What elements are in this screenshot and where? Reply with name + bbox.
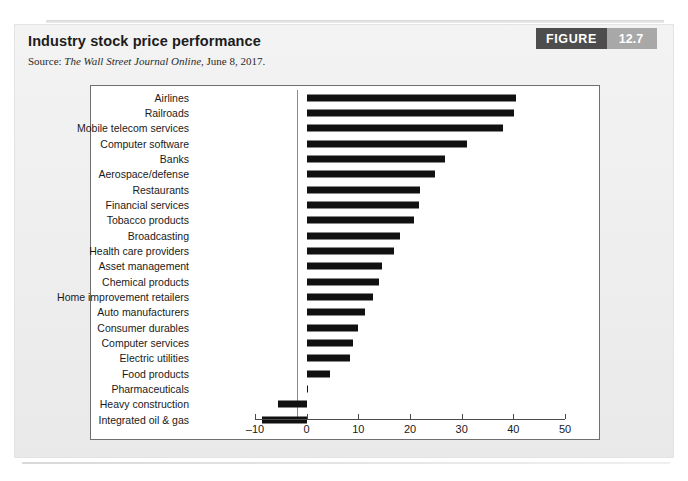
chart-bar [307, 278, 379, 285]
chart-bar [307, 171, 435, 178]
chart-bar-row: Auto manufacturers [91, 305, 601, 320]
figure-badge-number: 12.7 [607, 28, 657, 49]
category-label: Railroads [145, 107, 189, 119]
category-label: Electric utilities [120, 352, 189, 364]
figure-title: Industry stock price performance [28, 33, 261, 49]
chart-bar-row: Airlines [91, 90, 601, 105]
chart-bar-row: Mobile telecom services [91, 121, 601, 136]
chart-bar [307, 109, 515, 116]
category-label: Tobacco products [107, 214, 189, 226]
page-top-band [0, 0, 688, 22]
chart-bar [307, 293, 373, 300]
category-label: Mobile telecom services [77, 122, 189, 134]
chart-bar [307, 232, 400, 239]
category-label: Broadcasting [128, 230, 189, 242]
category-label: Aerospace/defense [99, 168, 189, 180]
figure-source: Source: The Wall Street Journal Online, … [28, 55, 265, 67]
chart-bar-row: Aerospace/defense [91, 167, 601, 182]
chart-bar-row: Railroads [91, 105, 601, 120]
category-label: Computer software [100, 138, 189, 150]
chart-bar [307, 125, 503, 132]
chart-bar [307, 324, 359, 331]
category-label: Chemical products [102, 276, 189, 288]
chart-bar [307, 217, 414, 224]
chart-bar-row: Heavy construction [91, 397, 601, 412]
chart-bar-row: Asset management [91, 259, 601, 274]
category-label: Banks [160, 153, 189, 165]
chart-bar [307, 201, 420, 208]
chart-bar-row: Tobacco products [91, 213, 601, 228]
chart-plot-panel: AirlinesRailroadsMobile telecom services… [90, 85, 600, 440]
category-label: Food products [122, 368, 189, 380]
figure-badge-word: FIGURE [536, 28, 607, 49]
bottom-divider [22, 462, 670, 464]
chart-bar-row: Pharmaceuticals [91, 381, 601, 396]
category-label: Restaurants [132, 184, 189, 196]
chart-bar-row: Health care providers [91, 243, 601, 258]
x-axis-tick-label: 40 [507, 423, 519, 435]
figure-page: Industry stock price performance Source:… [0, 0, 688, 481]
chart-bar [307, 186, 421, 193]
chart-bar-row: Computer services [91, 335, 601, 350]
chart-bar [307, 155, 445, 162]
x-axis-tick [513, 414, 514, 419]
chart-bar [307, 339, 354, 346]
chart-bar [307, 263, 382, 270]
x-axis-tick [565, 414, 566, 419]
chart-bar [307, 309, 365, 316]
chart-bar-row: Chemical products [91, 274, 601, 289]
x-axis-tick-label: –10 [246, 423, 264, 435]
chart-bar-row: Restaurants [91, 182, 601, 197]
category-label: Asset management [99, 260, 189, 272]
top-divider [46, 20, 664, 23]
chart-bar-row: Home improvement retailers [91, 289, 601, 304]
category-label: Integrated oil & gas [99, 414, 189, 426]
category-label: Computer services [101, 337, 189, 349]
chart-bar [307, 385, 309, 392]
category-label: Health care providers [89, 245, 189, 257]
chart-bar-row: Food products [91, 366, 601, 381]
chart-bar [278, 401, 306, 408]
source-date: , June 8, 2017. [201, 55, 265, 67]
chart-bar [307, 94, 516, 101]
chart-bar [307, 140, 467, 147]
chart-bar-row: Financial services [91, 197, 601, 212]
x-axis-tick [307, 414, 308, 419]
x-axis-tick [462, 414, 463, 419]
x-axis-tick [410, 414, 411, 419]
category-label: Home improvement retailers [57, 291, 189, 303]
x-axis-tick [255, 414, 256, 419]
x-axis-line [255, 419, 565, 420]
chart-bar-row: Broadcasting [91, 228, 601, 243]
category-label: Heavy construction [100, 398, 189, 410]
x-axis-tick-label: 20 [404, 423, 416, 435]
x-axis-tick-label: 30 [456, 423, 468, 435]
x-axis-tick [358, 414, 359, 419]
category-label: Financial services [106, 199, 189, 211]
category-label: Airlines [155, 92, 189, 104]
category-label: Consumer durables [97, 322, 189, 334]
chart-bar [307, 370, 331, 377]
source-publication: The Wall Street Journal Online [64, 55, 201, 67]
x-axis-tick-label: 0 [304, 423, 310, 435]
figure-badge: FIGURE 12.7 [536, 28, 657, 49]
chart-bar-row: Consumer durables [91, 320, 601, 335]
chart-bar-row: Banks [91, 151, 601, 166]
x-axis-tick-label: 10 [352, 423, 364, 435]
chart-bar-row: Electric utilities [91, 351, 601, 366]
chart-bar-row: Computer software [91, 136, 601, 151]
chart-bars-container: AirlinesRailroadsMobile telecom services… [91, 90, 601, 412]
chart-bar [307, 355, 350, 362]
category-label: Pharmaceuticals [111, 383, 189, 395]
chart-bar [307, 247, 395, 254]
x-axis-tick-label: 50 [559, 423, 571, 435]
category-label: Auto manufacturers [97, 306, 189, 318]
source-label: Source: [28, 55, 62, 67]
